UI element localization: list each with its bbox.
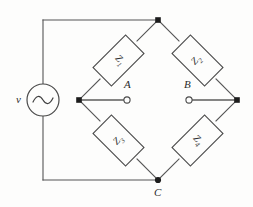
terminal-a-open-circle[interactable] xyxy=(124,97,130,103)
circuit-diagram-figure: v A B C Z1 Z2 Z3 Z4 xyxy=(0,0,253,207)
wire-arm1-upper xyxy=(137,20,158,41)
node-bottom-c xyxy=(155,177,161,183)
ac-source-symbol xyxy=(27,84,59,116)
wire-arm2-lower xyxy=(216,79,237,100)
node-c-label: C xyxy=(154,187,161,198)
circuit-schematic-svg xyxy=(0,0,253,207)
node-left xyxy=(76,97,82,103)
wire-arm2-upper xyxy=(158,20,179,41)
terminal-b-open-circle[interactable] xyxy=(186,97,192,103)
wire-arm3-upper xyxy=(79,100,100,121)
wire-arm4-upper xyxy=(216,100,237,121)
node-right xyxy=(234,97,240,103)
node-top xyxy=(155,17,161,23)
terminal-a-label: A xyxy=(124,79,131,90)
wire-arm4-lower xyxy=(158,159,179,180)
terminal-b-label: B xyxy=(184,79,191,90)
wire-arm1-lower xyxy=(79,79,100,100)
source-label: v xyxy=(16,94,21,105)
wire-arm3-lower xyxy=(137,159,158,180)
